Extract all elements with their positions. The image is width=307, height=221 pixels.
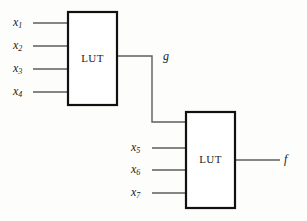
- label-x3: x3: [12, 61, 22, 76]
- lut-block-1[interactable]: LUT: [68, 12, 117, 105]
- lut-block-2[interactable]: LUT: [186, 112, 235, 208]
- wire-g-route: [117, 56, 186, 122]
- label-x4: x4: [12, 84, 22, 99]
- label-x5-sub: 5: [136, 146, 140, 155]
- label-x6: x6: [130, 162, 140, 177]
- label-x5: x5: [130, 140, 140, 155]
- diagram-canvas: LUT LUT x1 x2 x3 x4 x5: [0, 0, 307, 221]
- top-input-labels: x1 x2 x3 x4: [12, 15, 22, 99]
- label-x6-sub: 6: [136, 168, 140, 177]
- top-input-wires: [33, 23, 68, 92]
- label-x1: x1: [12, 15, 22, 30]
- label-x1-sub: 1: [18, 21, 22, 30]
- label-x2-sub: 2: [18, 44, 22, 53]
- label-f: f: [284, 152, 289, 166]
- label-g: g: [163, 49, 169, 63]
- bottom-input-labels: x5 x6 x7: [130, 140, 141, 200]
- label-x7: x7: [130, 185, 141, 200]
- wire-g-polyline: [117, 56, 186, 122]
- lut-block-1-label: LUT: [81, 52, 104, 64]
- label-x4-sub: 4: [18, 90, 22, 99]
- label-x3-sub: 3: [17, 67, 22, 76]
- bottom-input-wires: [152, 148, 186, 193]
- lut-block-2-label: LUT: [199, 153, 222, 165]
- lut-cascade-diagram: LUT LUT x1 x2 x3 x4 x5: [0, 0, 307, 221]
- label-x7-sub: 7: [136, 191, 141, 200]
- label-x2: x2: [12, 38, 22, 53]
